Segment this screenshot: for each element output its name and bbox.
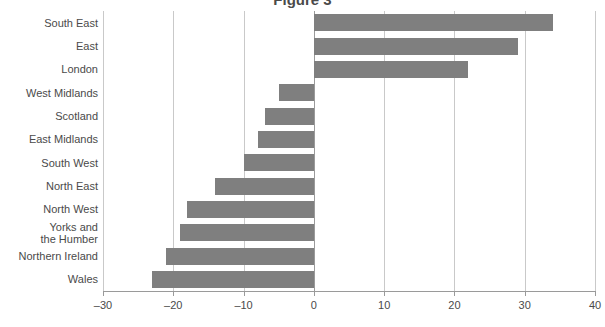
x-tick-mark <box>173 291 174 296</box>
category-label-line: North East <box>0 180 98 192</box>
x-tick-label: –20 <box>153 299 193 312</box>
plot-area <box>103 11 595 291</box>
bar <box>265 108 314 125</box>
category-label-line: Yorks and <box>0 221 98 233</box>
x-tick-mark <box>384 291 385 296</box>
category-label: East Midlands <box>0 133 98 145</box>
bar <box>244 154 314 171</box>
category-label-line: the Humber <box>0 233 98 245</box>
x-tick-mark <box>314 291 315 296</box>
x-tick-label: 10 <box>364 299 404 312</box>
category-label: Northern Ireland <box>0 250 98 262</box>
category-label-line: East Midlands <box>0 133 98 145</box>
bar-chart: Figure 3 South EastEastLondonWest Midlan… <box>0 0 605 327</box>
chart-title-fragment: Figure 3 <box>0 0 605 9</box>
category-label-line: East <box>0 40 98 52</box>
x-tick-label: –10 <box>224 299 264 312</box>
x-tick-label: 0 <box>294 299 334 312</box>
x-axis-line <box>103 291 595 292</box>
category-label: Scotland <box>0 110 98 122</box>
category-label: South East <box>0 17 98 29</box>
category-label-line: South East <box>0 17 98 29</box>
bar <box>314 14 553 31</box>
x-tick-mark <box>244 291 245 296</box>
category-label-line: West Midlands <box>0 87 98 99</box>
gridline <box>525 11 526 291</box>
category-label-line: London <box>0 63 98 75</box>
category-label: Wales <box>0 273 98 285</box>
x-tick-mark <box>525 291 526 296</box>
x-tick-mark <box>103 291 104 296</box>
category-label: South West <box>0 157 98 169</box>
category-label-line: Scotland <box>0 110 98 122</box>
x-tick-label: –30 <box>83 299 123 312</box>
x-tick-mark <box>595 291 596 296</box>
bar <box>258 131 314 148</box>
bar <box>314 38 518 55</box>
bar <box>180 224 314 241</box>
bar <box>166 248 314 265</box>
bar <box>314 61 469 78</box>
gridline <box>595 11 596 291</box>
x-tick-label: 40 <box>575 299 605 312</box>
chart-title-text: Figure 3 <box>0 0 605 7</box>
category-label: West Midlands <box>0 87 98 99</box>
category-axis-labels: South EastEastLondonWest MidlandsScotlan… <box>0 11 98 291</box>
category-label: London <box>0 63 98 75</box>
category-label-line: North West <box>0 203 98 215</box>
x-tick-label: 20 <box>434 299 474 312</box>
category-label: North West <box>0 203 98 215</box>
bar <box>152 271 314 288</box>
category-label: Yorks andthe Humber <box>0 221 98 245</box>
bar <box>279 84 314 101</box>
category-label-line: Northern Ireland <box>0 250 98 262</box>
category-label-line: Wales <box>0 273 98 285</box>
gridline <box>103 11 104 291</box>
x-tick-label: 30 <box>505 299 545 312</box>
bar <box>215 178 313 195</box>
x-tick-mark <box>454 291 455 296</box>
category-label-line: South West <box>0 157 98 169</box>
category-label: North East <box>0 180 98 192</box>
category-label: East <box>0 40 98 52</box>
bar <box>187 201 314 218</box>
